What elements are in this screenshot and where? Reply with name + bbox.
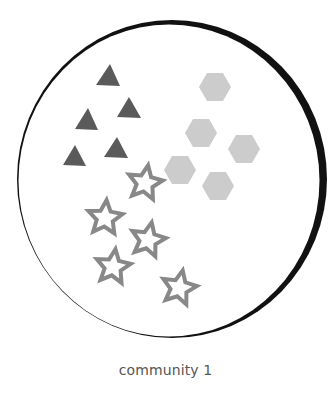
- community-diagram: [0, 0, 331, 399]
- community-caption: community 1: [0, 362, 331, 378]
